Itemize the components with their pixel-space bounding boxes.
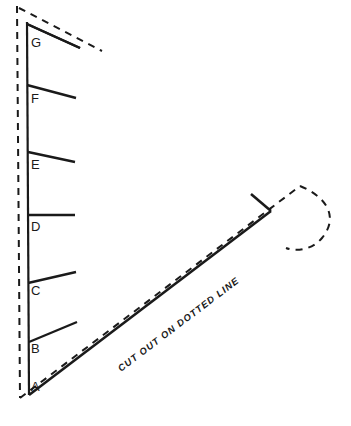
ray-label-C: C bbox=[31, 283, 40, 298]
ray-label-B: B bbox=[31, 341, 40, 356]
ray-label-A: A bbox=[31, 379, 40, 394]
ray-label-F: F bbox=[31, 91, 39, 106]
canvas-background bbox=[0, 0, 351, 426]
ray-label-D: D bbox=[31, 219, 40, 234]
ray-label-E: E bbox=[31, 157, 40, 172]
cutout-diagram: G F E D C B A CUT OUT ON DOTTED LINE bbox=[0, 0, 351, 426]
ray-label-G: G bbox=[31, 35, 41, 50]
pattern-canvas: G F E D C B A CUT OUT ON DOTTED LINE bbox=[0, 0, 351, 426]
